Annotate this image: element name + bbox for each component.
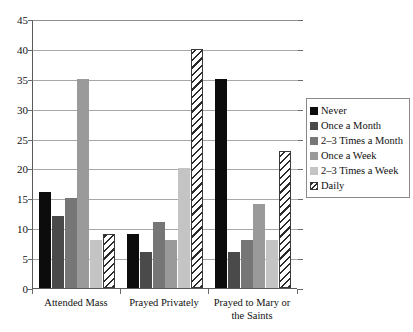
bar — [65, 198, 77, 288]
y-axis-label-0: 0 — [2, 284, 28, 295]
y-tick-right-0 — [298, 289, 303, 290]
legend-swatch-icon — [310, 167, 318, 175]
y-tick-right-40 — [298, 50, 303, 51]
bar — [215, 79, 227, 288]
y-tick-left-20 — [28, 169, 33, 170]
y-tick-right-25 — [298, 140, 303, 141]
y-tick-left-30 — [28, 110, 33, 111]
y-axis-label-45: 45 — [2, 15, 28, 26]
bar — [127, 234, 139, 288]
bar — [191, 49, 203, 288]
legend-swatch-icon — [310, 137, 318, 145]
legend-item: Once a Week — [310, 148, 405, 163]
y-tick-right-30 — [298, 110, 303, 111]
bar — [77, 79, 89, 288]
legend-item: Once a Month — [310, 118, 405, 133]
legend-swatch-icon — [310, 182, 318, 190]
legend-item: 2–3 Times a Month — [310, 133, 405, 148]
bar-group — [39, 19, 117, 288]
y-tick-right-15 — [298, 199, 303, 200]
legend-swatch-icon — [310, 122, 318, 130]
legend-label: 2–3 Times a Week — [321, 165, 398, 176]
y-axis-label-40: 40 — [2, 45, 28, 56]
legend-item: Daily — [310, 178, 405, 193]
y-tick-left-5 — [28, 259, 33, 260]
bar — [52, 216, 64, 288]
y-axis-label-35: 35 — [2, 75, 28, 86]
legend-item: 2–3 Times a Week — [310, 163, 405, 178]
y-axis-label-5: 5 — [2, 254, 28, 265]
legend-label: 2–3 Times a Month — [321, 135, 403, 146]
bar — [266, 240, 278, 288]
x-axis-category-label: Prayed to Mary orthe Saints — [192, 296, 312, 322]
bar-group — [215, 19, 293, 288]
y-tick-right-20 — [298, 169, 303, 170]
legend-item: Never — [310, 103, 405, 118]
legend: NeverOnce a Month2–3 Times a MonthOnce a… — [306, 98, 410, 198]
bar — [178, 168, 190, 288]
legend-swatch-icon — [310, 152, 318, 160]
y-tick-left-45 — [28, 20, 33, 21]
bar — [241, 240, 253, 288]
y-tick-left-40 — [28, 50, 33, 51]
bar — [90, 240, 102, 288]
y-tick-right-45 — [298, 20, 303, 21]
x-tick — [120, 289, 121, 294]
y-tick-right-35 — [298, 80, 303, 81]
bar — [165, 240, 177, 288]
y-axis-label-20: 20 — [2, 164, 28, 175]
y-axis-label-25: 25 — [2, 135, 28, 146]
y-tick-left-25 — [28, 140, 33, 141]
bar — [228, 252, 240, 288]
y-tick-left-15 — [28, 199, 33, 200]
y-axis-label-10: 10 — [2, 224, 28, 235]
bar — [140, 252, 152, 288]
plot-area — [32, 20, 297, 289]
y-axis-label-15: 15 — [2, 194, 28, 205]
bar — [39, 192, 51, 288]
y-tick-right-5 — [298, 259, 303, 260]
legend-label: Never — [321, 105, 347, 116]
x-tick — [208, 289, 209, 294]
x-tick — [297, 289, 298, 294]
bar — [103, 234, 115, 288]
legend-label: Once a Month — [321, 120, 381, 131]
x-tick — [32, 289, 33, 294]
bar-group — [127, 19, 205, 288]
y-tick-right-10 — [298, 229, 303, 230]
bar — [253, 204, 265, 288]
y-tick-left-10 — [28, 229, 33, 230]
legend-swatch-icon — [310, 107, 318, 115]
bar-chart: 454035302520151050 Attended MassPrayed P… — [0, 0, 413, 332]
bar — [153, 222, 165, 288]
bar — [279, 151, 291, 288]
y-axis-label-30: 30 — [2, 105, 28, 116]
legend-label: Once a Week — [321, 150, 377, 161]
legend-label: Daily — [321, 180, 344, 191]
y-tick-left-35 — [28, 80, 33, 81]
